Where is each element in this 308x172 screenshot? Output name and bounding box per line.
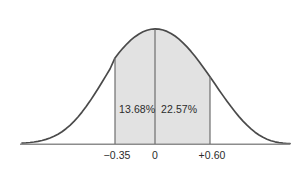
area-percentage-label-right: 22.57% [161, 104, 197, 115]
x-axis-tick-label-zero: 0 [152, 150, 158, 161]
x-axis-tick-label-plus-060: +0.60 [198, 150, 225, 161]
area-percentage-label-left: 13.68% [119, 104, 155, 115]
bell-curve-chart [0, 0, 308, 172]
x-axis-tick-label-minus-035: −0.35 [103, 150, 130, 161]
shaded-area-under-curve [115, 29, 210, 144]
normal-distribution-figure: 13.68% 22.57% −0.35 0 +0.60 [0, 0, 308, 172]
